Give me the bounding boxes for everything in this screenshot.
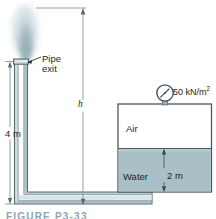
figure-drawing xyxy=(0,0,216,219)
figure-caption: FIGURE P3-33 xyxy=(6,211,88,219)
label-total-height: h xyxy=(78,100,83,110)
label-air: Air xyxy=(126,124,138,134)
label-pipe-exit-line2: exit xyxy=(42,64,61,74)
label-water: Water xyxy=(123,172,148,182)
label-gauge-pressure: 50 kN/m2 xyxy=(173,88,210,97)
gauge-value-text: 50 kN/m xyxy=(173,87,207,97)
label-water-depth: 2 m xyxy=(167,171,183,181)
label-pipe-exit: Pipe exit xyxy=(42,54,61,74)
figure-container: Pipe exit 4 m h 50 kN/m2 Air Water 2 m F… xyxy=(0,0,216,219)
pipe-exit-collar xyxy=(14,59,29,64)
pressure-gauge-icon xyxy=(157,85,173,105)
spray-plume-icon xyxy=(12,5,40,62)
label-pipe-height: 4 m xyxy=(5,129,21,139)
gauge-exponent-text: 2 xyxy=(207,85,211,92)
